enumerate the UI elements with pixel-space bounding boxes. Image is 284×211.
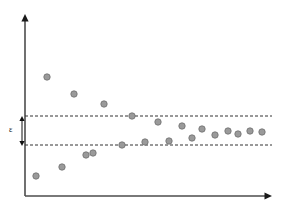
data-point (166, 138, 172, 144)
data-point (189, 135, 195, 141)
x-axis-arrowhead-icon (265, 192, 273, 199)
data-point (259, 129, 265, 135)
tolerance-band-lines (25, 116, 272, 145)
data-point (129, 113, 135, 119)
data-point (119, 142, 125, 148)
axes-group (21, 14, 272, 200)
data-points-group (33, 74, 265, 179)
data-point (101, 101, 107, 107)
data-point (235, 131, 241, 137)
data-point (33, 173, 39, 179)
plot-canvas (0, 0, 284, 211)
data-point (90, 150, 96, 156)
data-point (179, 123, 185, 129)
data-point (155, 119, 161, 125)
epsilon-arrowhead-down-icon (19, 141, 24, 146)
epsilon-label: ε (9, 126, 12, 134)
data-point (44, 74, 50, 80)
data-point (247, 128, 253, 134)
epsilon-arrow (19, 116, 24, 146)
data-point (71, 91, 77, 97)
data-point (59, 164, 65, 170)
epsilon-arrowhead-up-icon (19, 116, 24, 121)
data-point (225, 128, 231, 134)
data-point (142, 139, 148, 145)
y-axis-arrowhead-icon (21, 14, 28, 22)
data-point (199, 126, 205, 132)
scatter-convergence-figure: ε (0, 0, 284, 211)
data-point (83, 152, 89, 158)
data-point (212, 132, 218, 138)
